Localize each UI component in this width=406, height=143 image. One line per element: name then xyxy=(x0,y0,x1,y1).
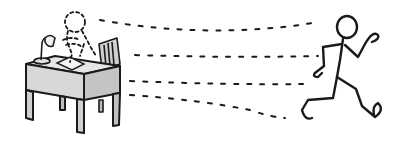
ghost-figure xyxy=(63,12,96,62)
motion-lines xyxy=(100,20,318,118)
runner xyxy=(302,16,381,119)
illustration: Cartoon of a person running away from a … xyxy=(0,0,406,143)
